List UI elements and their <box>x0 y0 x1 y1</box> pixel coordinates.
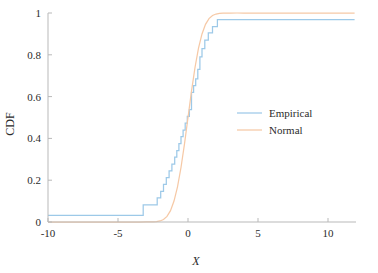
x-tick-label: 0 <box>185 227 191 239</box>
y-tick-label: 0.8 <box>27 49 41 61</box>
legend-label-normal: Normal <box>269 124 303 136</box>
legend-label-empirical: Empirical <box>269 107 312 119</box>
cdf-figure: -10-50510 00.20.40.60.81 X CDF Empirical… <box>0 0 378 273</box>
x-axis-title: X <box>191 254 200 268</box>
x-tick-label: -10 <box>41 227 56 239</box>
y-tick-label: 0.2 <box>27 174 41 186</box>
chart-canvas: -10-50510 00.20.40.60.81 X CDF Empirical… <box>0 0 378 273</box>
x-tick-label: -5 <box>113 227 123 239</box>
y-tick-label: 0.4 <box>27 132 41 144</box>
x-tick-label: 5 <box>255 227 261 239</box>
y-tick-label: 0 <box>36 216 42 228</box>
y-tick-label: 0.6 <box>27 91 41 103</box>
x-tick-label: 10 <box>323 227 335 239</box>
y-tick-label: 1 <box>36 7 42 19</box>
y-axis-title: CDF <box>3 112 17 136</box>
